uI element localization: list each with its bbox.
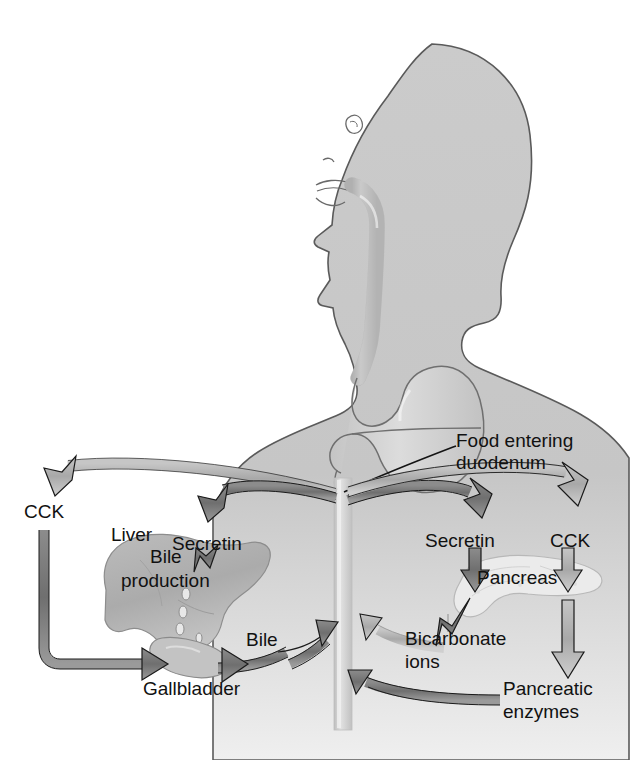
label-secretin-right: Secretin	[425, 530, 495, 551]
label-pancreatic-enzymes-line1: Pancreatic	[503, 678, 593, 699]
label-bicarbonate-line2: ions	[405, 651, 440, 672]
label-cck-right: CCK	[550, 530, 590, 551]
label-bile: Bile	[246, 629, 278, 650]
label-food-entering-duodenum-line2: duodenum	[456, 452, 546, 473]
label-pancreas: Pancreas	[477, 567, 557, 588]
label-liver: Liver	[111, 524, 152, 545]
ear	[346, 115, 362, 133]
label-pancreatic-enzymes-line2: enzymes	[503, 701, 579, 722]
label-food-entering-duodenum-line1: Food entering	[456, 430, 573, 451]
label-bile-production-line2: production	[121, 570, 210, 591]
label-bile-production-line1: Bile	[150, 546, 182, 567]
label-bicarbonate-line1: Bicarbonate	[405, 628, 506, 649]
label-cck-left: CCK	[24, 501, 64, 522]
label-secretin-left: Secretin	[172, 533, 242, 554]
nostril	[323, 158, 334, 162]
anatomy-illustration	[0, 0, 630, 760]
diagram-canvas: Food entering duodenum CCK Secretin Live…	[0, 0, 630, 760]
duodenum	[334, 478, 352, 730]
label-gallbladder: Gallbladder	[143, 678, 240, 699]
